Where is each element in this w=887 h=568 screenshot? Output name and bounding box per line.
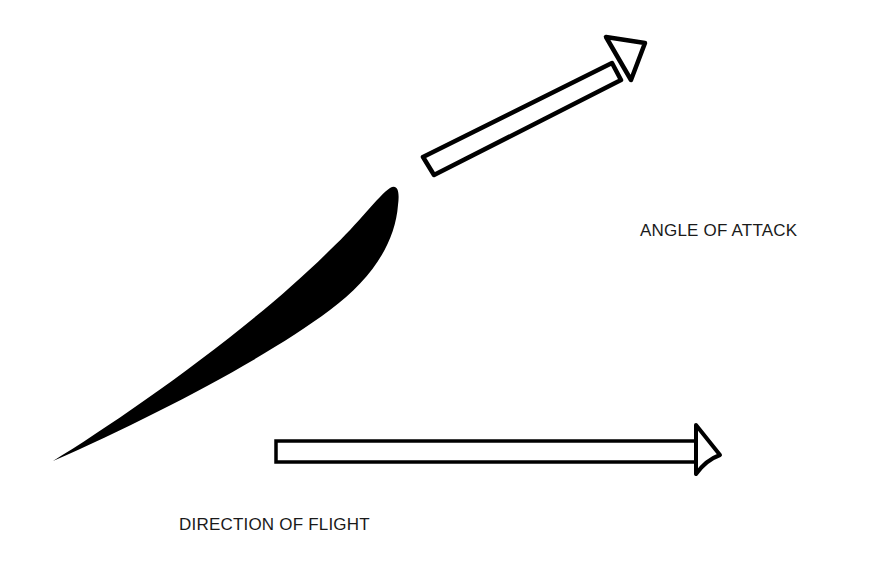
diagram-canvas [0, 0, 887, 568]
direction-of-flight-label: DIRECTION OF FLIGHT [179, 515, 370, 535]
aoa-arrow-shaft [423, 63, 621, 175]
angle-of-attack-label: ANGLE OF ATTACK [640, 221, 797, 241]
angle-of-attack-arrow [423, 37, 645, 175]
flight-arrow-shaft [276, 441, 696, 462]
airfoil-shape [53, 187, 399, 461]
flight-direction-arrow [276, 425, 720, 474]
flight-arrowhead [696, 425, 720, 474]
